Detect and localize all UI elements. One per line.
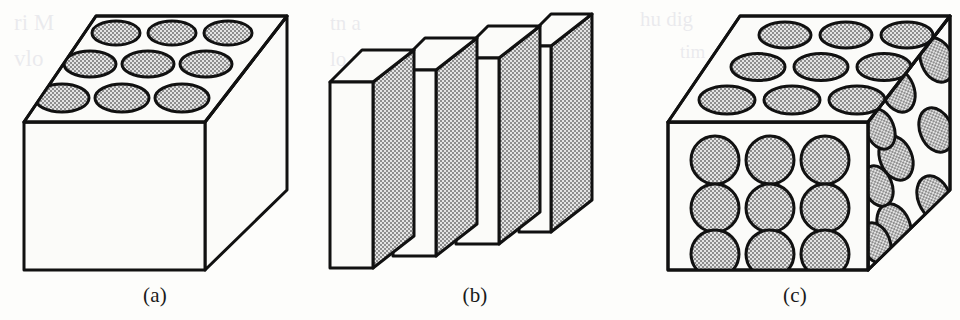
fiber-ellipse [95, 84, 149, 112]
panel-b-caption: (b) [415, 283, 535, 308]
fiber-ellipse [764, 86, 820, 114]
plate-side-face [551, 14, 592, 232]
laminate-plate [330, 50, 414, 268]
svg-text:tn a: tn a [330, 11, 362, 35]
fiber-circle [801, 136, 849, 184]
panel-c-caption: (c) [735, 283, 855, 308]
figure-container: ri M vlo oo an jrot rneo tn a lo ns unli… [0, 0, 960, 320]
plate-side-face [499, 26, 540, 244]
panel-c-cube [668, 16, 960, 278]
fiber-ellipse [35, 84, 89, 112]
panel-c-front-fiber-array [691, 136, 849, 278]
fiber-ellipse [92, 21, 140, 45]
fiber-ellipse [64, 51, 116, 77]
fiber-ellipse [759, 22, 811, 48]
svg-text:ri M: ri M [14, 10, 54, 35]
svg-text:tim: tim [680, 41, 706, 62]
fiber-circle [691, 136, 739, 184]
plate-side-face [373, 50, 414, 268]
panel-b-laminate-stack [330, 14, 592, 268]
fiber-ellipse [881, 22, 933, 48]
panel-a-cube [24, 16, 287, 270]
fiber-circle [746, 184, 794, 232]
plate-side-face [436, 38, 477, 256]
fiber-ellipse [794, 54, 848, 81]
fiber-ellipse [699, 86, 755, 114]
fiber-ellipse [731, 54, 785, 81]
fiber-ellipse [180, 51, 232, 77]
svg-text:hu dig: hu dig [640, 7, 694, 31]
fiber-ellipse [204, 21, 252, 45]
fiber-circle [746, 136, 794, 184]
figure-illustration: ri M vlo oo an jrot rneo tn a lo ns unli… [0, 0, 960, 320]
svg-text:vlo: vlo [14, 46, 43, 71]
fiber-ellipse [148, 21, 196, 45]
fiber-ellipse [155, 84, 209, 112]
panel-a-front-face [24, 122, 205, 270]
fiber-circle [691, 184, 739, 232]
fiber-ellipse [122, 51, 174, 77]
fiber-ellipse [820, 22, 872, 48]
plate-front-face [330, 82, 373, 268]
panel-a-caption: (a) [95, 283, 215, 308]
fiber-circle [801, 184, 849, 232]
